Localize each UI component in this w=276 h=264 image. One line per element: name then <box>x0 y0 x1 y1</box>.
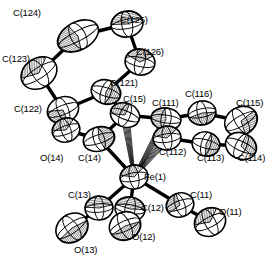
atom-label-c111: C(111) <box>152 98 178 108</box>
atom-label-c114: C(114) <box>238 153 265 163</box>
atom-label-c123: C(123) <box>2 54 30 64</box>
atom-label-c12: C(12) <box>141 203 164 213</box>
atom-label-c11: C(11) <box>190 190 212 200</box>
atom-label-c112: C(112) <box>159 147 186 157</box>
atom-label-c14: C(14) <box>78 153 101 163</box>
atom-label-c124: C(124) <box>13 8 41 18</box>
atom-label-c125: C(125) <box>120 15 148 25</box>
atom-label-c113: C(113) <box>197 153 224 163</box>
atom-label-o13: O(13) <box>74 245 97 255</box>
atom-label-c121: C(121) <box>110 78 138 88</box>
atom-label-c126: C(126) <box>136 47 164 57</box>
atom-label-c15: C(15) <box>123 94 146 104</box>
atom-label-c13: C(13) <box>68 190 91 200</box>
atom-label-o14: O(14) <box>40 153 63 163</box>
atom-label-o12: O(12) <box>132 232 155 242</box>
ortep-canvas <box>0 0 276 264</box>
atom-label-o11: O(11) <box>219 207 242 217</box>
atom-label-c115: C(115) <box>236 98 263 108</box>
atom-ellipsoid <box>186 98 218 127</box>
atom-label-c116: C(116) <box>185 89 212 99</box>
ortep-figure: C(124)C(125)C(126)C(123)C(122)C(121)C(15… <box>0 0 276 264</box>
atom-label-fe1: Fe(1) <box>144 172 166 182</box>
atom-label-c122: C(122) <box>14 104 42 114</box>
